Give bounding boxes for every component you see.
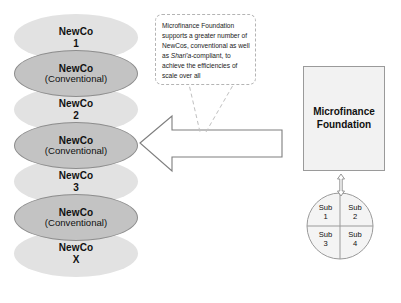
callout-text: Microfinance Foundation supports a great…: [162, 21, 250, 81]
callout-bubble: Microfinance Foundation supports a great…: [155, 14, 256, 85]
newco-label-line2: 1: [73, 38, 79, 49]
diagram-canvas: NewCo 1 NewCo (Conventional) NewCo 2 New…: [0, 0, 401, 303]
newco-label-line1: NewCo: [59, 242, 93, 253]
newco-label-line1: NewCo: [59, 98, 93, 109]
subsidiary-quadrant-3: Sub 3: [306, 226, 340, 260]
subsidiary-quadrant-2: Sub 2: [340, 192, 374, 226]
newco-ellipse-conventional-2: NewCo (Conventional): [14, 122, 138, 169]
subsidiary-label-line2: 1: [323, 213, 327, 222]
subsidiary-quadrant-4: Sub 4: [340, 226, 374, 260]
newco-label-line2: (Conventional): [45, 74, 107, 85]
newco-ellipse-conventional-3: NewCo (Conventional): [14, 194, 138, 241]
subsidiaries-circle: Sub 1 Sub 2 Sub 3 Sub 4: [306, 192, 374, 260]
microfinance-foundation-label: Microfinance Foundation: [313, 106, 375, 131]
bidirectional-arrow-icon: [333, 173, 349, 197]
subsidiary-label-line2: 2: [353, 213, 357, 222]
microfinance-foundation-box: Microfinance Foundation: [303, 66, 385, 171]
newco-label-line2: (Conventional): [45, 218, 107, 229]
newco-label-line2: 2: [73, 110, 79, 121]
aggregation-arrow-left-icon: [138, 112, 284, 174]
newco-label-line1: NewCo: [59, 26, 93, 37]
subsidiary-label-line2: 4: [353, 240, 357, 249]
subsidiary-quadrant-1: Sub 1: [306, 192, 340, 226]
newco-label-line2: 3: [73, 182, 79, 193]
newco-label-line1: NewCo: [59, 170, 93, 181]
newco-label-line2: X: [73, 254, 80, 265]
subsidiary-label-line2: 3: [323, 240, 327, 249]
newco-label-line2: (Conventional): [45, 146, 107, 157]
newco-ellipse-conventional-1: NewCo (Conventional): [14, 50, 138, 97]
